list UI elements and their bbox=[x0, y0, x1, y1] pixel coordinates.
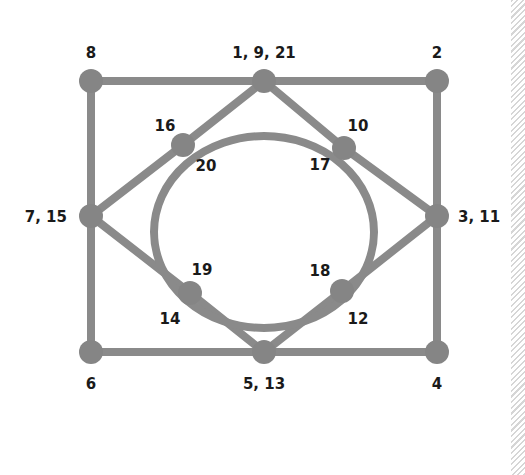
inner-label-19: 19 bbox=[192, 261, 213, 279]
diamond-edge-lower-left-inner-to-left-middle bbox=[91, 216, 190, 293]
edges-layer bbox=[91, 81, 437, 352]
inner-label-18: 18 bbox=[310, 262, 331, 280]
node-top-right bbox=[425, 69, 449, 93]
node-top-center bbox=[252, 69, 276, 93]
node-top-left bbox=[79, 69, 103, 93]
graph-diagram: 1, 9, 2123, 1145, 1367, 1581012141617181… bbox=[0, 0, 525, 475]
node-label-right-middle: 3, 11 bbox=[458, 208, 500, 226]
node-label-bottom-right: 4 bbox=[432, 375, 442, 393]
node-label-lower-right-inner: 12 bbox=[348, 310, 369, 328]
node-label-upper-left-inner: 16 bbox=[155, 117, 176, 135]
node-bottom-left bbox=[79, 340, 103, 364]
node-label-top-center: 1, 9, 21 bbox=[232, 44, 296, 62]
node-bottom-center bbox=[252, 340, 276, 364]
inner-label-20: 20 bbox=[196, 157, 217, 175]
node-label-top-right: 2 bbox=[432, 44, 442, 62]
nodes-layer bbox=[79, 69, 449, 364]
node-label-lower-left-inner: 14 bbox=[160, 310, 181, 328]
node-lower-right-inner bbox=[330, 279, 354, 303]
node-label-bottom-center: 5, 13 bbox=[243, 375, 285, 393]
node-label-left-middle: 7, 15 bbox=[25, 208, 67, 226]
node-label-bottom-left: 6 bbox=[86, 375, 96, 393]
hatched-edge-strip bbox=[511, 0, 525, 475]
node-label-upper-right-inner: 10 bbox=[348, 117, 369, 135]
node-lower-left-inner bbox=[178, 281, 202, 305]
node-upper-left-inner bbox=[171, 133, 195, 157]
node-label-top-left: 8 bbox=[86, 44, 96, 62]
node-left-middle bbox=[79, 204, 103, 228]
node-bottom-right bbox=[425, 340, 449, 364]
node-right-middle bbox=[425, 204, 449, 228]
inner-label-17: 17 bbox=[310, 156, 331, 174]
node-upper-right-inner bbox=[332, 136, 356, 160]
